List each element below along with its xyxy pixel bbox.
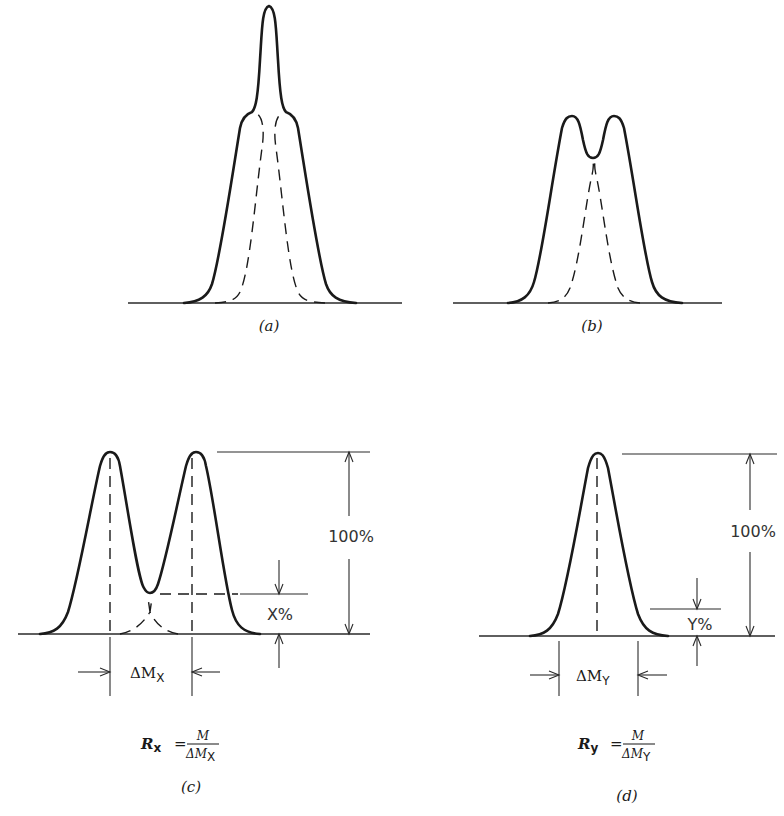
denominator-sub: Y — [642, 750, 651, 764]
denominator-main: ΔM — [621, 747, 644, 761]
panel-c: 100% X% ΔMX Rx = M ΔMX (c) — [18, 452, 374, 796]
label-y-percent: Y% — [687, 615, 713, 634]
formula-lhs-d: Ry — [577, 735, 598, 755]
label-delta-m-y: ΔMY — [576, 667, 610, 688]
formula-r-sub: x — [153, 741, 161, 755]
formula-numerator-c: M — [196, 729, 210, 743]
denominator-sub: X — [207, 750, 215, 764]
delta-m-text: ΔM — [130, 664, 156, 682]
formula-denominator-c: ΔMX — [185, 747, 215, 764]
denominator-main: ΔM — [185, 747, 208, 761]
component-peak-left-b — [548, 158, 593, 303]
delta-m-text: ΔM — [576, 667, 602, 685]
resolution-formula-d: Ry = M ΔMY — [577, 729, 655, 764]
sum-envelope-a — [184, 6, 356, 303]
caption-c: (c) — [181, 778, 201, 796]
sum-envelope-b — [508, 116, 682, 303]
formula-r: R — [577, 735, 590, 753]
caption-d: (d) — [616, 787, 637, 805]
component-tail-crossing-c — [120, 598, 178, 634]
formula-lhs-c: Rx — [140, 735, 161, 755]
mass-resolution-figure: (a) (b) 100% X% — [0, 0, 784, 816]
delta-m-subscript: X — [156, 671, 164, 685]
sum-envelope-c — [40, 452, 260, 634]
delta-m-subscript: Y — [601, 674, 610, 688]
panel-d: 100% Y% ΔMY Ry = M ΔMY (d) — [479, 453, 777, 805]
panel-a: (a) — [128, 6, 402, 335]
formula-equals-d: = — [610, 735, 623, 753]
resolution-formula-c: Rx = M ΔMX — [140, 729, 219, 764]
label-delta-m-x: ΔMX — [130, 664, 164, 685]
label-100-percent-c: 100% — [328, 527, 374, 546]
formula-r-sub: y — [590, 741, 598, 755]
label-x-percent: X% — [267, 605, 293, 624]
panel-b: (b) — [453, 116, 722, 335]
formula-r: R — [140, 735, 153, 753]
caption-b: (b) — [581, 317, 602, 335]
caption-a: (a) — [259, 317, 280, 335]
formula-denominator-d: ΔMY — [621, 747, 651, 764]
label-100-percent-d: 100% — [730, 522, 776, 541]
peak-envelope-d — [530, 453, 668, 636]
formula-numerator-d: M — [631, 729, 645, 743]
formula-equals-c: = — [174, 735, 187, 753]
